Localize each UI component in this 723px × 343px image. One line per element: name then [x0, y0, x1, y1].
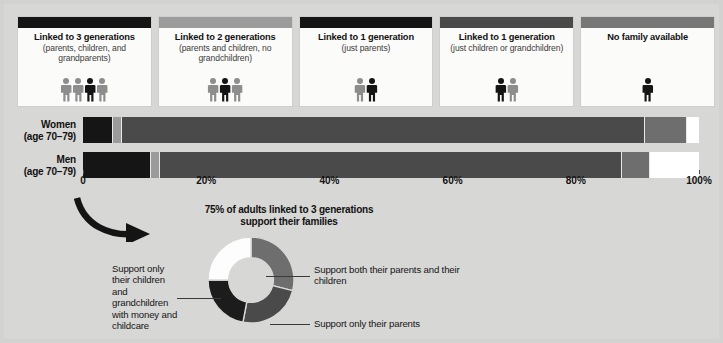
legend-card-3: Linked to 1 generation(just parents): [300, 17, 433, 106]
donut-slice: [208, 237, 251, 280]
person-figure-icon: [365, 78, 378, 102]
stacked-bar-chart: Women(age 70–79)Men(age 70–79) 020%40%60…: [4, 109, 723, 199]
donut-section: 75% of adults linked to 3 generations su…: [4, 200, 723, 343]
bar-row-label-men: Men(age 70–79): [4, 154, 76, 177]
person-body-icon: [73, 85, 84, 102]
legend-card-body: Linked to 1 generation(just children or …: [440, 28, 573, 106]
person-head-icon: [369, 78, 375, 84]
legend-card-body: Linked to 3 generations(parents, childre…: [18, 28, 151, 106]
legend-card-4: Linked to 1 generation(just children or …: [440, 17, 573, 106]
person-body-icon: [97, 85, 108, 102]
family-figures-icon-group: [495, 76, 519, 102]
legend-card-title: Linked to 1 generation: [459, 32, 555, 43]
person-body-icon: [495, 85, 506, 102]
person-body-icon: [61, 85, 72, 102]
person-head-icon: [63, 78, 69, 84]
person-body-icon: [220, 85, 231, 102]
legend-card-2: Linked to 2 generations(parents and chil…: [159, 17, 292, 106]
family-figures-icon-group: [207, 76, 243, 102]
bar-row-label-women: Women(age 70–79): [4, 119, 76, 142]
legend-card-title: Linked to 2 generations: [175, 32, 276, 43]
donut-chart-svg: [207, 236, 295, 324]
family-figures-icon-group: [642, 76, 654, 102]
person-head-icon: [510, 78, 516, 84]
callout-title-line2: support their families: [169, 216, 409, 228]
donut-slice: [251, 237, 294, 291]
legend-card-color-bar: [581, 17, 714, 28]
leader-line-right-top: [266, 276, 310, 277]
person-body-icon: [354, 85, 365, 102]
leader-line-left: [177, 298, 221, 299]
bar-row-label-age: (age 70–79): [4, 131, 76, 143]
legend-card-subtitle: (parents, children, and grandparents): [23, 43, 146, 63]
person-head-icon: [222, 78, 228, 84]
legend-card-body: Linked to 1 generation(just parents): [300, 28, 433, 106]
legend-card-1: Linked to 3 generations(parents, childre…: [18, 17, 151, 106]
person-body-icon: [507, 85, 518, 102]
donut-slice: [208, 280, 247, 322]
axis-tick: [329, 170, 330, 174]
person-figure-icon: [506, 78, 519, 102]
person-body-icon: [232, 85, 243, 102]
person-figure-icon: [231, 78, 244, 102]
donut-slice: [243, 286, 293, 323]
person-head-icon: [210, 78, 216, 84]
bar-row-label-name: Women: [4, 119, 76, 131]
curved-arrow-icon: [74, 196, 164, 242]
axis-tick-label: 20%: [196, 175, 216, 186]
axis-tick-label: 80%: [566, 175, 586, 186]
infographic-panel: Linked to 3 generations(parents, childre…: [4, 4, 719, 339]
legend-card-color-bar: [159, 17, 292, 28]
legend-card-color-bar: [440, 17, 573, 28]
callout-title: 75% of adults linked to 3 generations su…: [169, 204, 409, 227]
legend-card-title: Linked to 1 generation: [318, 32, 414, 43]
person-head-icon: [498, 78, 504, 84]
legend-card-row: Linked to 3 generations(parents, childre…: [18, 17, 714, 106]
bar-segment: [644, 117, 685, 143]
person-head-icon: [357, 78, 363, 84]
bar-segment: [121, 117, 645, 143]
person-figure-icon: [96, 78, 109, 102]
person-head-icon: [645, 78, 651, 84]
x-axis: 020%40%60%80%100%: [83, 170, 699, 192]
bar-segment: [112, 117, 120, 143]
axis-tick-label: 0: [80, 175, 86, 186]
donut-chart: [207, 236, 295, 324]
legend-card-subtitle: (parents and children, no grandchildren): [164, 43, 287, 63]
axis-tick: [576, 170, 577, 174]
bar-row-label-name: Men: [4, 154, 76, 166]
axis-tick: [453, 170, 454, 174]
person-body-icon: [642, 85, 653, 102]
bar-segment: [686, 117, 699, 143]
donut-label-support-both: Support both their parents and their chi…: [314, 264, 474, 287]
infographic-stage: Linked to 3 generations(parents, childre…: [0, 0, 723, 343]
legend-card-5: No family available: [581, 17, 714, 106]
legend-card-title: No family available: [607, 32, 688, 43]
axis-tick: [699, 170, 700, 174]
bar-segment: [83, 117, 112, 143]
family-figures-icon-group: [354, 76, 378, 102]
axis-tick: [206, 170, 207, 174]
donut-label-support-children: Support only their children and grandchi…: [112, 263, 182, 331]
donut-label-support-parents: Support only their parents: [314, 318, 484, 329]
axis-tick-label: 100%: [686, 175, 712, 186]
person-figure-icon: [641, 78, 654, 102]
person-head-icon: [234, 78, 240, 84]
legend-card-subtitle: (just children or grandchildren): [450, 43, 563, 53]
legend-card-body: No family available: [581, 28, 714, 106]
stacked-bar-row: [83, 117, 699, 143]
bar-row-label-age: (age 70–79): [4, 166, 76, 178]
axis-tick-label: 60%: [443, 175, 463, 186]
axis-tick-label: 40%: [319, 175, 339, 186]
callout-title-line1: 75% of adults linked to 3 generations: [169, 204, 409, 216]
leader-line-right-bottom: [270, 324, 310, 325]
axis-tick: [83, 170, 84, 174]
legend-card-color-bar: [300, 17, 433, 28]
legend-card-color-bar: [18, 17, 151, 28]
person-body-icon: [85, 85, 96, 102]
person-body-icon: [208, 85, 219, 102]
person-body-icon: [366, 85, 377, 102]
person-head-icon: [75, 78, 81, 84]
legend-card-title: Linked to 3 generations: [34, 32, 135, 43]
family-figures-icon-group: [60, 76, 108, 102]
